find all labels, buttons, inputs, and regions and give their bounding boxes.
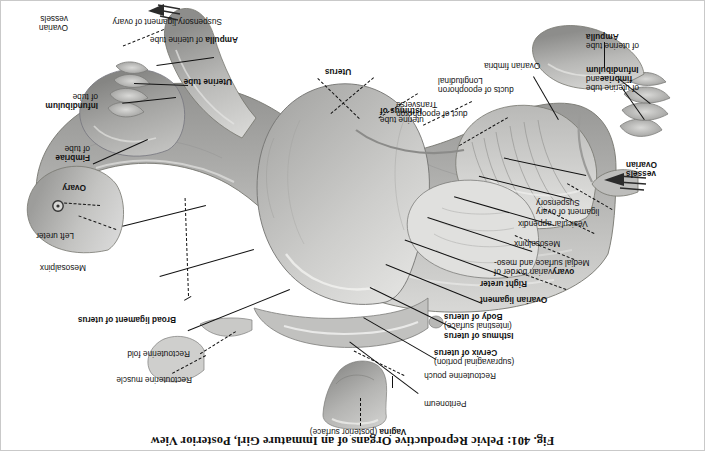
label-vagina: Vagina (posterior surface)	[298, 427, 418, 436]
label-isthmus-of-uterine-tube: uterine tube Isthmus of	[380, 106, 492, 124]
label-suspensory-ligament-right: Suspensory ligament of ovary	[113, 17, 222, 26]
label-ovarian-vessels-right: Ovarian vessels	[39, 14, 68, 32]
figure-page: Fig. 401: Pelvic Reproductive Organs of …	[0, 0, 705, 451]
label-suspensory-ligament-left: ligament of ovary Suspensory	[536, 198, 690, 216]
label-ampulla-right: Ampulla of uterine tube	[150, 35, 238, 44]
label-mesosalpinx-left: Mesosalpinx	[514, 239, 664, 248]
anatomical-plate: Fig. 401: Pelvic Reproductive Organs of …	[1, 1, 704, 450]
label-rectouterine-pouch: Rectouterine pouch	[424, 371, 574, 380]
leader-line	[392, 376, 393, 388]
label-medial-surface-of-ovary: ovaryvarian border of Medial surface and…	[494, 258, 684, 276]
label-rectouterine-fold: Rectouterine fold	[127, 349, 190, 358]
label-longitudinal-ducts-epoophoron: ducts of epoophoron Longitudinal	[438, 76, 584, 94]
label-uterine-tube-right: Uterine tube	[184, 77, 232, 86]
label-body-of-uterus: (intestinal surface) Body of uterus	[444, 312, 604, 330]
label-ovarian-ligament: Ovarian ligament	[480, 295, 632, 304]
label-ovary-right: Ovary	[62, 183, 86, 192]
label-fimbriae-of-tube: Fimbriae of tube	[55, 144, 90, 162]
label-infundibulum-of-tube: Infundibulum of tube	[45, 92, 98, 110]
label-vesicular-appendix: Vesicular appendix	[518, 219, 684, 228]
label-ampulla-left: of uterine tube Ampulla	[586, 32, 698, 50]
label-cervix-of-uterus: (supravaginal portion) Cervix of uterus	[434, 348, 594, 366]
label-uterus: Uterus	[298, 67, 378, 76]
label-left-ureter: Left ureter	[36, 231, 74, 240]
label-rectouterine-muscle: Rectouterine muscle	[116, 375, 192, 384]
label-right-ureter: Right ureter	[480, 279, 632, 288]
label-isthmus-of-uterus: Isthmus of uterus	[444, 331, 594, 340]
label-ovarian-fimbria: Ovarian fimbria	[484, 61, 604, 70]
leader-line	[360, 398, 361, 426]
label-mesosalpinx-right: Mesosalpinx	[40, 263, 86, 272]
label-ovarian-vessels-left: vessels Ovarian	[626, 160, 692, 178]
label-broad-ligament-of-uterus: Broad ligament of uterus	[78, 315, 176, 324]
label-peritoneum: Peritoneum	[424, 399, 554, 408]
